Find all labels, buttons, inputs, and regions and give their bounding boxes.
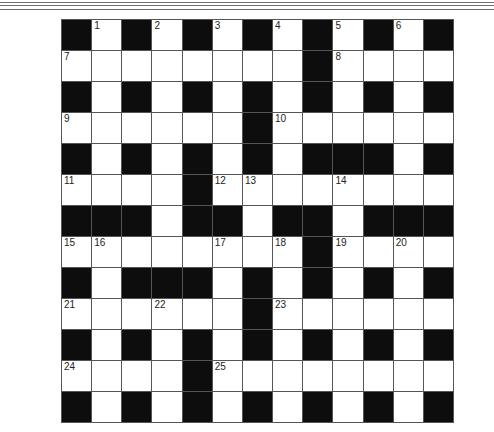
answer-cell[interactable]	[213, 330, 242, 360]
answer-cell[interactable]: 19	[333, 237, 362, 267]
answer-cell[interactable]: 22	[152, 299, 181, 329]
answer-cell[interactable]: 20	[394, 237, 423, 267]
answer-cell[interactable]	[394, 113, 423, 143]
answer-cell[interactable]: 4	[273, 20, 302, 50]
answer-cell[interactable]	[273, 392, 302, 422]
answer-cell[interactable]	[183, 299, 212, 329]
answer-cell[interactable]	[122, 51, 151, 81]
answer-cell[interactable]	[152, 392, 181, 422]
answer-cell[interactable]	[152, 361, 181, 391]
answer-cell[interactable]	[92, 144, 121, 174]
answer-cell[interactable]	[213, 144, 242, 174]
answer-cell[interactable]	[243, 237, 272, 267]
answer-cell[interactable]	[333, 113, 362, 143]
answer-cell[interactable]	[364, 113, 393, 143]
answer-cell[interactable]: 23	[273, 299, 302, 329]
answer-cell[interactable]	[333, 330, 362, 360]
answer-cell[interactable]	[424, 237, 453, 267]
answer-cell[interactable]: 1	[92, 20, 121, 50]
answer-cell[interactable]	[213, 392, 242, 422]
answer-cell[interactable]	[183, 237, 212, 267]
answer-cell[interactable]	[122, 237, 151, 267]
answer-cell[interactable]	[243, 361, 272, 391]
answer-cell[interactable]: 9	[62, 113, 91, 143]
answer-cell[interactable]	[152, 237, 181, 267]
answer-cell[interactable]	[122, 361, 151, 391]
answer-cell[interactable]	[92, 51, 121, 81]
answer-cell[interactable]: 8	[333, 51, 362, 81]
answer-cell[interactable]: 17	[213, 237, 242, 267]
answer-cell[interactable]	[394, 82, 423, 112]
answer-cell[interactable]	[394, 51, 423, 81]
answer-cell[interactable]	[394, 268, 423, 298]
answer-cell[interactable]	[92, 392, 121, 422]
answer-cell[interactable]: 13	[243, 175, 272, 205]
answer-cell[interactable]	[152, 82, 181, 112]
answer-cell[interactable]: 5	[333, 20, 362, 50]
answer-cell[interactable]: 24	[62, 361, 91, 391]
answer-cell[interactable]: 6	[394, 20, 423, 50]
answer-cell[interactable]: 10	[273, 113, 302, 143]
answer-cell[interactable]	[333, 392, 362, 422]
answer-cell[interactable]	[273, 144, 302, 174]
answer-cell[interactable]: 3	[213, 20, 242, 50]
answer-cell[interactable]	[152, 113, 181, 143]
answer-cell[interactable]	[243, 51, 272, 81]
answer-cell[interactable]	[394, 144, 423, 174]
answer-cell[interactable]	[273, 51, 302, 81]
answer-cell[interactable]	[303, 175, 332, 205]
answer-cell[interactable]	[273, 268, 302, 298]
answer-cell[interactable]	[92, 268, 121, 298]
answer-cell[interactable]	[424, 175, 453, 205]
answer-cell[interactable]	[152, 175, 181, 205]
answer-cell[interactable]: 14	[333, 175, 362, 205]
answer-cell[interactable]	[273, 82, 302, 112]
answer-cell[interactable]	[394, 299, 423, 329]
answer-cell[interactable]	[364, 299, 393, 329]
answer-cell[interactable]: 12	[213, 175, 242, 205]
answer-cell[interactable]	[152, 144, 181, 174]
answer-cell[interactable]	[243, 206, 272, 236]
answer-cell[interactable]	[394, 175, 423, 205]
answer-cell[interactable]	[92, 82, 121, 112]
answer-cell[interactable]	[183, 113, 212, 143]
answer-cell[interactable]: 21	[62, 299, 91, 329]
answer-cell[interactable]	[424, 299, 453, 329]
answer-cell[interactable]	[303, 361, 332, 391]
answer-cell[interactable]	[213, 82, 242, 112]
answer-cell[interactable]	[122, 175, 151, 205]
answer-cell[interactable]	[273, 361, 302, 391]
answer-cell[interactable]	[303, 113, 332, 143]
answer-cell[interactable]	[333, 361, 362, 391]
answer-cell[interactable]: 2	[152, 20, 181, 50]
answer-cell[interactable]	[424, 51, 453, 81]
answer-cell[interactable]	[122, 113, 151, 143]
answer-cell[interactable]	[92, 175, 121, 205]
answer-cell[interactable]	[273, 330, 302, 360]
answer-cell[interactable]	[213, 113, 242, 143]
answer-cell[interactable]	[273, 175, 302, 205]
answer-cell[interactable]: 15	[62, 237, 91, 267]
answer-cell[interactable]	[152, 51, 181, 81]
answer-cell[interactable]	[424, 113, 453, 143]
answer-cell[interactable]	[213, 51, 242, 81]
answer-cell[interactable]	[394, 392, 423, 422]
answer-cell[interactable]	[333, 82, 362, 112]
answer-cell[interactable]	[92, 299, 121, 329]
answer-cell[interactable]: 11	[62, 175, 91, 205]
answer-cell[interactable]: 7	[62, 51, 91, 81]
answer-cell[interactable]	[92, 361, 121, 391]
answer-cell[interactable]: 25	[213, 361, 242, 391]
answer-cell[interactable]	[333, 299, 362, 329]
answer-cell[interactable]	[183, 51, 212, 81]
answer-cell[interactable]	[152, 206, 181, 236]
answer-cell[interactable]	[303, 299, 332, 329]
answer-cell[interactable]	[424, 361, 453, 391]
answer-cell[interactable]	[364, 237, 393, 267]
answer-cell[interactable]	[333, 206, 362, 236]
answer-cell[interactable]	[92, 330, 121, 360]
answer-cell[interactable]	[213, 299, 242, 329]
answer-cell[interactable]	[213, 268, 242, 298]
answer-cell[interactable]: 18	[273, 237, 302, 267]
answer-cell[interactable]: 16	[92, 237, 121, 267]
